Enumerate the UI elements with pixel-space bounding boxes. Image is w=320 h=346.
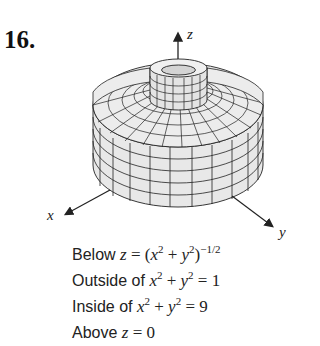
condition-math: x2 + y2 = 9 <box>137 297 208 316</box>
x-axis-label: x <box>47 207 54 224</box>
condition-prefix: Inside of <box>72 298 137 315</box>
condition-prefix: Outside of <box>72 272 149 289</box>
y-axis <box>232 196 272 226</box>
condition-inside: Inside of x2 + y2 = 9 <box>72 294 221 320</box>
condition-math: z = (x2 + y2)−1/2 <box>120 245 221 264</box>
condition-math: z = 0 <box>122 323 155 342</box>
z-axis-label: z <box>187 26 193 43</box>
condition-below: Below z = (x2 + y2)−1/2 <box>72 242 221 268</box>
condition-outside: Outside of x2 + y2 = 1 <box>72 268 221 294</box>
condition-prefix: Above <box>72 324 122 341</box>
condition-prefix: Below <box>72 246 120 263</box>
condition-math: x2 + y2 = 1 <box>149 271 220 290</box>
y-axis-label: y <box>279 224 286 241</box>
condition-above: Above z = 0 <box>72 320 221 346</box>
region-conditions: Below z = (x2 + y2)−1/2 Outside of x2 + … <box>72 242 221 346</box>
x-axis <box>66 190 110 214</box>
